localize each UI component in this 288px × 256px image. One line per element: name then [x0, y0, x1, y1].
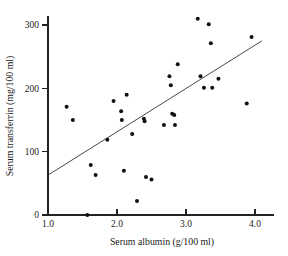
data-point: [119, 109, 123, 113]
y-tick-label: 0: [34, 210, 39, 220]
data-point: [210, 86, 214, 90]
data-point: [135, 199, 139, 203]
x-tick-label: 3.0: [180, 219, 192, 229]
y-axis-ticks: 0100200300: [25, 20, 48, 220]
x-axis-ticks: 1.02.03.04.0: [42, 209, 261, 229]
data-point: [202, 86, 206, 90]
data-point: [207, 22, 211, 26]
x-tick-label: 1.0: [42, 219, 54, 229]
y-tick-label: 200: [25, 84, 40, 94]
data-point: [245, 102, 249, 106]
y-tick-label: 100: [25, 147, 40, 157]
x-tick-label: 4.0: [249, 219, 261, 229]
y-axis-title: Serum transferrin (mg/100 ml): [4, 56, 16, 177]
x-axis-title: Serum albumin (g/100 ml): [110, 236, 214, 248]
data-point: [169, 83, 173, 87]
data-point: [105, 138, 109, 142]
data-point: [216, 77, 220, 81]
data-point: [173, 123, 177, 127]
data-point: [71, 118, 75, 122]
data-point: [196, 17, 200, 21]
data-point: [120, 118, 124, 122]
data-point: [125, 93, 129, 97]
data-point: [94, 173, 98, 177]
data-point: [122, 169, 126, 173]
y-tick-label: 300: [25, 20, 40, 30]
data-point: [250, 35, 254, 39]
x-tick-label: 2.0: [111, 219, 123, 229]
data-point: [198, 74, 202, 78]
data-point: [65, 105, 69, 109]
data-point: [130, 132, 134, 136]
data-point: [144, 175, 148, 179]
data-point: [89, 163, 93, 167]
data-point: [172, 113, 176, 117]
data-point: [167, 74, 171, 78]
data-point: [112, 99, 116, 103]
data-points-group: [65, 17, 254, 217]
regression-line-segment: [48, 41, 262, 175]
data-point: [143, 119, 147, 123]
scatter-plot-figure: 0100200300 1.02.03.04.0 Serum albumin (g…: [0, 0, 288, 256]
data-point: [209, 41, 213, 45]
data-point: [162, 123, 166, 127]
data-point: [150, 178, 154, 182]
data-point: [85, 213, 89, 217]
data-point: [176, 62, 180, 66]
chart-canvas: 0100200300 1.02.03.04.0 Serum albumin (g…: [0, 0, 288, 256]
regression-line: [48, 41, 262, 175]
